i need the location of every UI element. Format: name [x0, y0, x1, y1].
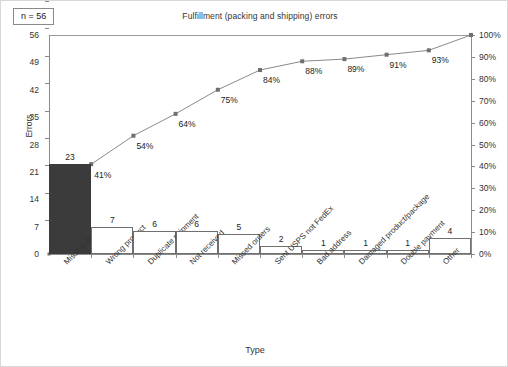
y-axis-left-label: 7 [1, 222, 39, 232]
bar-value-label: 6 [152, 219, 157, 229]
y-axis-right-label: 50% [479, 140, 496, 150]
y-axis-right-label: 90% [479, 52, 496, 62]
y-axis-right-tick [471, 57, 475, 58]
bar-value-label: 5 [237, 222, 242, 232]
bar-value-label: 2 [279, 234, 284, 244]
x-axis-tick [260, 254, 261, 258]
cumulative-percent-label: 91% [390, 60, 407, 70]
x-axis-title: Type [1, 345, 508, 355]
y-axis-right-tick [471, 210, 475, 211]
y-axis-right-label: 80% [479, 74, 496, 84]
cumulative-percent-label: 88% [305, 66, 322, 76]
cumulative-percent-label: 84% [263, 75, 280, 85]
y-axis-right-label: 10% [479, 227, 496, 237]
bar-value-label: 1 [405, 238, 410, 248]
chart-title: Fulfillment (packing and shipping) error… [49, 11, 471, 21]
y-axis-right-label: 100% [479, 30, 501, 40]
y-axis-left-tick [45, 1, 49, 2]
y-axis-left-label: 28 [1, 140, 39, 150]
y-axis-right-tick [471, 232, 475, 233]
y-axis-left-label: 49 [1, 57, 39, 67]
y-axis-left-label: 21 [1, 167, 39, 177]
y-axis-right-tick [471, 123, 475, 124]
y-axis-left-label: 56 [1, 30, 39, 40]
y-axis-right-tick [471, 188, 475, 189]
y-axis-right-tick [471, 35, 475, 36]
y-axis-right-label: 60% [479, 118, 496, 128]
bar-value-label: 7 [110, 215, 115, 225]
x-axis-tick [344, 254, 345, 258]
y-axis-left-label: 42 [1, 85, 39, 95]
bar-value-label: 23 [65, 152, 74, 162]
y-axis-right-label: 70% [479, 96, 496, 106]
x-axis-tick [176, 254, 177, 258]
y-axis-right-label: 30% [479, 183, 496, 193]
y-axis-right-label: 0% [479, 249, 491, 259]
x-axis-tick [302, 254, 303, 258]
y-axis-right-tick [471, 79, 475, 80]
cumulative-percent-label: 75% [221, 95, 238, 105]
bar-value-label: 1 [321, 238, 326, 248]
cumulative-percent-label: 41% [94, 170, 111, 180]
y-axis-right-label: 20% [479, 205, 496, 215]
bar-value-label: 6 [194, 219, 199, 229]
y-axis-right-label: 40% [479, 161, 496, 171]
pareto-chart: n = 56 Fulfillment (packing and shipping… [0, 0, 508, 367]
bar-value-label: 4 [448, 226, 453, 236]
x-axis-tick [133, 254, 134, 258]
y-axis-right-tick [471, 166, 475, 167]
cumulative-percent-label: 89% [347, 64, 364, 74]
y-axis-right-tick [471, 101, 475, 102]
y-axis-left-tick [45, 28, 49, 29]
cumulative-percent-label: 54% [136, 141, 153, 151]
bar-value-label: 1 [363, 238, 368, 248]
y-axis-right-tick [471, 145, 475, 146]
y-axis-left-label: 14 [1, 194, 39, 204]
y-axis-left-label: 35 [1, 112, 39, 122]
y-axis-left-label: 0 [1, 249, 39, 259]
x-axis-tick [387, 254, 388, 258]
x-axis-tick [471, 254, 472, 258]
cumulative-percent-label: 93% [432, 55, 449, 65]
x-axis-tick [218, 254, 219, 258]
x-axis-tick [91, 254, 92, 258]
cumulative-percent-label: 64% [179, 119, 196, 129]
x-axis-tick [429, 254, 430, 258]
